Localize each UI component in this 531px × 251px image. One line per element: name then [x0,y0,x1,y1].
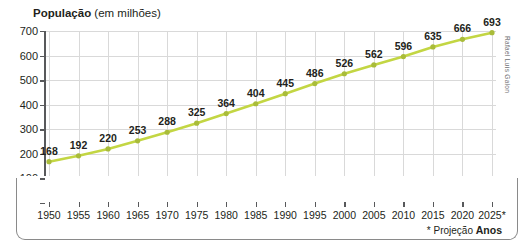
x-axis-tick-label: 1980 [215,209,238,221]
chart-screenshot: População (em milhões) 01002003004005006… [0,0,531,251]
data-point-marker [194,121,199,126]
data-point-label: 168 [40,145,58,157]
y-axis-tick [40,203,45,204]
data-point-label: 253 [129,124,147,136]
data-point-label: 325 [188,106,206,118]
chart-title-bold: População [33,7,91,19]
data-point-marker [224,111,229,116]
chart-title: População (em milhões) [33,7,161,19]
population-line-series [45,31,496,203]
data-point-label: 220 [99,132,117,144]
data-point-marker [76,153,81,158]
data-point-marker [283,91,288,96]
x-axis-tick-label: 1975 [185,209,208,221]
y-axis-tick [40,178,45,179]
data-point-label: 562 [365,48,383,60]
data-point-marker [135,138,140,143]
y-axis-tick-label: 500 [4,74,38,86]
x-axis-tick [138,202,139,207]
y-axis-tick-label: 0 [4,197,38,209]
footnote: * Projeção Anos [427,224,502,236]
data-point-marker [489,30,494,35]
y-axis-tick [40,80,45,81]
y-axis-tick-label: 600 [4,50,38,62]
data-point-label: 364 [217,97,235,109]
data-point-label: 486 [306,67,324,79]
x-axis-tick-label: 2020 [451,209,474,221]
y-axis-tick [40,105,45,106]
y-axis-tick [40,56,45,57]
x-axis-tick-label: 1970 [155,209,178,221]
data-point-label: 635 [424,30,442,42]
x-axis-tick [167,202,168,207]
x-axis-tick [256,202,257,207]
data-point-label: 693 [483,16,501,28]
x-axis-tick [197,202,198,207]
y-axis-tick [40,129,45,130]
x-axis-tick [433,202,434,207]
data-point-marker [105,146,110,151]
x-axis-tick-label: 1965 [126,209,149,221]
x-axis-tick [315,202,316,207]
data-point-label: 192 [70,139,88,151]
y-axis-tick-label: 700 [4,25,38,37]
x-axis-tick [344,202,345,207]
x-axis-tick-label: 2005 [362,209,385,221]
data-point-marker [401,54,406,59]
y-axis-tick-label: 100 [4,172,38,184]
data-point-label: 596 [395,40,413,52]
data-point-label: 526 [336,57,354,69]
chart-title-subtitle: (em milhões) [91,7,161,19]
data-point-marker [460,37,465,42]
x-axis-tick-label: 1990 [274,209,297,221]
data-point-marker [253,101,258,106]
data-point-label: 666 [454,22,472,34]
data-point-label: 288 [158,115,176,127]
x-axis-tick [226,202,227,207]
data-point-marker [165,130,170,135]
x-axis-tick-label: 1960 [96,209,119,221]
x-axis-tick-label: 1950 [37,209,60,221]
data-point-marker [46,159,51,164]
x-axis-tick-label: 2010 [392,209,415,221]
x-axis-tick [403,202,404,207]
data-point-label: 445 [277,77,295,89]
x-axis-title: Anos [476,224,502,236]
x-axis-tick-label: 1995 [303,209,326,221]
x-axis-tick [374,202,375,207]
y-axis-labels: 0100200300400500600700 [0,0,38,251]
x-axis-tick-label: 1955 [67,209,90,221]
y-axis-tick-label: 200 [4,148,38,160]
x-axis-tick [108,202,109,207]
data-point-marker [312,81,317,86]
y-axis-tick-label: 300 [4,123,38,135]
x-axis-tick-label: 1985 [244,209,267,221]
x-axis-tick [79,202,80,207]
x-axis-tick-label: 2015 [421,209,444,221]
data-point-marker [371,62,376,67]
data-point-marker [430,44,435,49]
x-axis-tick [49,202,50,207]
y-axis-tick-label: 400 [4,99,38,111]
x-axis-tick-label: 2025* [478,209,505,221]
x-axis-tick [462,202,463,207]
y-axis-tick [40,31,45,32]
projection-note: * Projeção [427,225,473,236]
x-axis-tick [285,202,286,207]
credit-text: Rafael Luís Galon [504,36,511,93]
data-point-marker [342,71,347,76]
data-point-label: 404 [247,87,265,99]
x-axis-tick-label: 2000 [333,209,356,221]
x-axis-tick [492,202,493,207]
